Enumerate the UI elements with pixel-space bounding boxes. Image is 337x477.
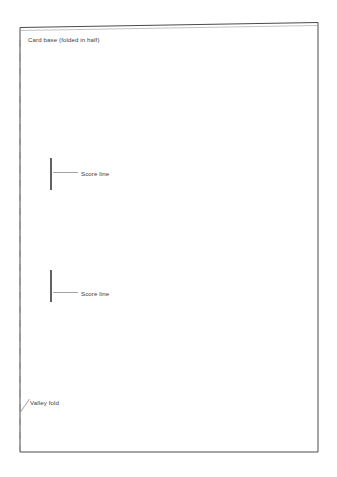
- label-score-line-top: Score line: [81, 170, 109, 178]
- craft-template-diagram: Card base (folded in half) Score line Sc…: [0, 0, 337, 477]
- label-score-line-bottom: Score line: [81, 290, 109, 298]
- label-card-base: Card base (folded in half): [28, 36, 100, 44]
- label-valley-fold: Valley fold: [30, 399, 59, 407]
- valley-fold-leader: [21, 399, 30, 412]
- card-base-outline: [20, 23, 318, 453]
